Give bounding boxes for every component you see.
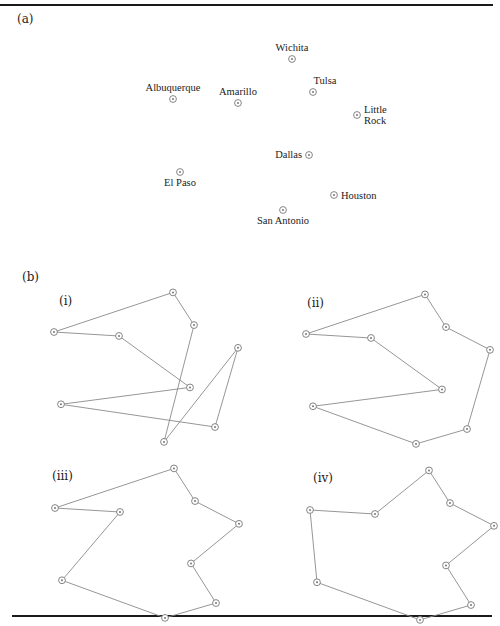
city-marker-icon-amarillo-iii [117,509,124,516]
city-marker-icon-san-antonio [280,207,287,214]
city-marker-icon-houston-iv [468,602,475,609]
city-marker-icon-houston-i [212,424,219,431]
city-marker-icon-albuquerque-i [51,329,58,336]
city-label-little-rock: LittleRock [364,104,387,126]
city-marker-icon-el-paso-i [58,401,65,408]
city-marker-icon-albuquerque [170,96,177,103]
city-marker-icon-dallas-iii [188,560,195,567]
city-label-albuquerque: Albuquerque [146,82,201,93]
city-marker-icon-little-rock-i [235,344,242,351]
tour-panel-i [51,289,242,445]
city-marker-icon-san-antonio-ii [413,440,420,447]
city-label-amarillo: Amarillo [219,86,257,97]
city-marker-icon-amarillo [235,100,242,107]
tour-path-iii [55,468,239,618]
tour-path-i [54,292,238,442]
city-marker-icon-dallas [306,152,313,159]
city-map: WichitaAlbuquerqueAmarilloTulsaLittleRoc… [146,42,387,226]
city-marker-icon-dallas-iv [443,562,450,569]
tour-panel-iii [52,465,243,621]
city-marker-icon-little-rock-iii [236,520,243,527]
tour-panel-iv [307,467,498,623]
city-marker-icon-wichita-i [170,289,177,296]
city-marker-icon-houston-iii [213,600,220,607]
city-marker-icon-amarillo-ii [368,335,375,342]
city-marker-icon-el-paso-iv [314,579,321,586]
city-marker-icon-wichita-ii [422,291,429,298]
city-marker-icon-houston-ii [464,426,471,433]
city-marker-icon-tulsa-iii [192,498,199,505]
city-marker-icon-tulsa-iv [447,500,454,507]
city-marker-icon-wichita-iv [426,467,433,474]
city-marker-icon-dallas-ii [439,386,446,393]
city-label-dallas: Dallas [275,149,302,160]
city-marker-icon-dallas-i [187,384,194,391]
city-marker-icon-el-paso [177,169,184,176]
city-marker-icon-little-rock-ii [487,346,494,353]
city-marker-icon-little-rock [354,112,361,119]
city-marker-icon-san-antonio-iv [417,616,424,623]
city-marker-icon-albuquerque-iv [307,507,314,514]
city-label-houston: Houston [341,190,377,201]
city-marker-icon-little-rock-iv [491,522,498,529]
city-marker-icon-albuquerque-iii [52,505,59,512]
city-label-wichita: Wichita [276,42,309,53]
city-marker-icon-san-antonio-iii [162,614,169,621]
city-marker-icon-el-paso-iii [59,577,66,584]
city-label-san-antonio: San Antonio [257,215,309,226]
city-marker-icon-albuquerque-ii [303,331,310,338]
tour-panel-ii [303,291,494,447]
city-marker-icon-houston [331,192,338,199]
tour-path-ii [306,294,490,444]
city-marker-icon-san-antonio-i [161,438,168,445]
city-marker-icon-wichita [289,56,296,63]
city-marker-icon-el-paso-ii [310,403,317,410]
tsp-figure: WichitaAlbuquerqueAmarilloTulsaLittleRoc… [0,0,500,626]
city-marker-icon-amarillo-i [116,333,123,340]
city-marker-icon-amarillo-iv [372,511,379,518]
city-marker-icon-wichita-iii [171,465,178,472]
city-marker-icon-tulsa-ii [443,324,450,331]
city-marker-icon-tulsa [310,89,317,96]
city-marker-icon-tulsa-i [191,322,198,329]
city-label-el-paso: El Paso [164,177,196,188]
city-label-tulsa: Tulsa [314,75,337,86]
tour-path-iv [310,470,494,620]
